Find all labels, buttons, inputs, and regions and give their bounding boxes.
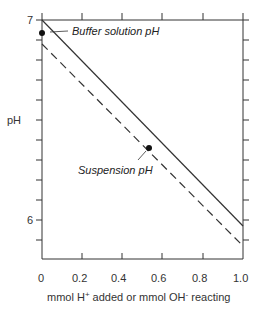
y-axis-label: pH (7, 114, 21, 126)
y-tick-7: 7 (27, 14, 33, 26)
ph-chart: 7 6 0 0.2 0.4 0.6 0.8 1.0 pH mmol H+ add… (0, 0, 263, 318)
x-tick-0.2: 0.2 (72, 272, 87, 284)
x-ticks (42, 13, 243, 259)
suspension-marker (146, 145, 152, 151)
x-tick-1.0: 1.0 (233, 272, 248, 284)
x-tick-0.8: 0.8 (192, 272, 207, 284)
suspension-annotation: Suspension pH (78, 164, 153, 176)
suspension-line (42, 44, 243, 246)
y-tick-6: 6 (27, 214, 33, 226)
x-tick-0: 0 (38, 272, 44, 284)
suspension-leader (138, 151, 146, 160)
x-tick-0.4: 0.4 (111, 272, 126, 284)
x-axis-label: mmol H+ added or mmol OH- reacting (47, 290, 230, 303)
y-ticks (36, 20, 249, 240)
buffer-marker (39, 30, 45, 36)
x-tick-0.6: 0.6 (151, 272, 166, 284)
buffer-line (42, 20, 243, 226)
buffer-annotation: Buffer solution pH (72, 25, 159, 37)
